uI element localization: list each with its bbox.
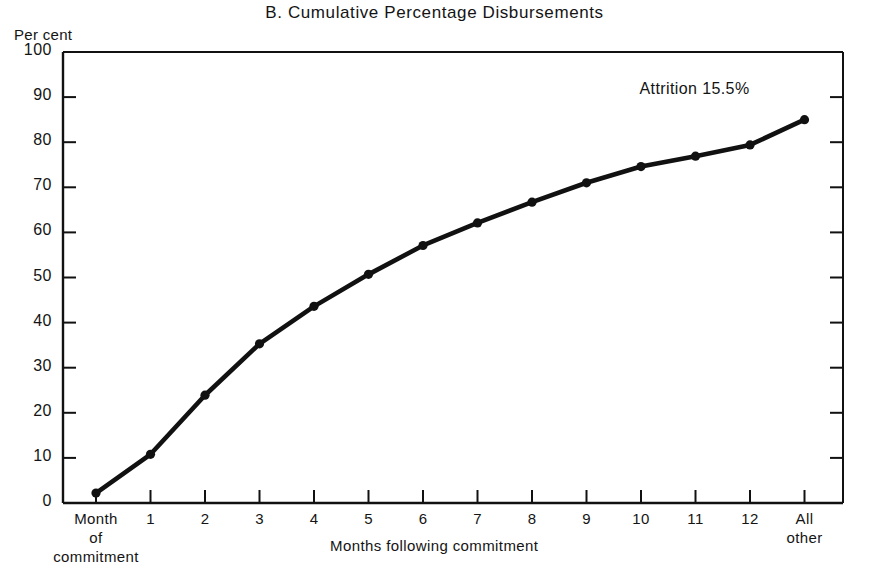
y-axis-tick-label: 60 xyxy=(4,221,52,239)
x-axis-tick-label-line: 2 xyxy=(201,510,210,529)
x-axis-tick-label: 1 xyxy=(146,510,155,529)
y-axis-tick-label: 0 xyxy=(4,492,52,510)
x-axis-tick-label: 6 xyxy=(419,510,428,529)
x-axis-tick-label-line: 8 xyxy=(528,510,537,529)
x-axis-tick-label: 7 xyxy=(473,510,482,529)
x-axis-tick-label: 4 xyxy=(310,510,319,529)
y-axis-ticks xyxy=(63,97,76,458)
y-axis-tick-label: 70 xyxy=(4,176,52,194)
attrition-annotation: Attrition 15.5% xyxy=(639,80,749,98)
x-axis-tick-label-line: 10 xyxy=(632,510,650,529)
x-axis-tick-label-line: Month xyxy=(53,510,139,529)
y-axis-tick-label: 90 xyxy=(4,86,52,104)
data-line xyxy=(96,120,805,493)
y-axis-tick-label: 40 xyxy=(4,312,52,330)
x-axis-tick-label-line: 11 xyxy=(687,510,703,529)
x-axis-tick-label-line: of xyxy=(53,529,139,548)
x-axis-tick-label-line: 4 xyxy=(310,510,319,529)
data-point-markers xyxy=(91,115,809,498)
y-axis-tick-label: 10 xyxy=(4,447,52,465)
y-axis-ticks-right xyxy=(830,97,843,458)
y-axis-tick-label: 80 xyxy=(4,131,52,149)
x-axis-tick-label-line: 12 xyxy=(741,510,759,529)
x-axis-tick-label-line: 7 xyxy=(473,510,482,529)
x-axis-tick-label: Allother xyxy=(786,510,822,548)
x-axis-tick-label: 2 xyxy=(201,510,210,529)
x-axis-tick-label-line: 1 xyxy=(146,510,155,529)
x-axis-tick-label-line: 3 xyxy=(255,510,264,529)
x-axis-tick-label: 3 xyxy=(255,510,264,529)
x-axis-title: Months following commitment xyxy=(330,537,538,554)
x-axis-tick-label: 9 xyxy=(582,510,591,529)
x-axis-tick-label-line: 5 xyxy=(364,510,373,529)
x-axis-tick-label: 5 xyxy=(364,510,373,529)
x-axis-tick-label-line: All xyxy=(786,510,822,529)
y-axis-tick-label: 50 xyxy=(4,267,52,285)
x-axis-tick-label: 11 xyxy=(687,510,703,529)
x-axis-tick-label: 12 xyxy=(741,510,759,529)
x-axis-tick-label-line: other xyxy=(786,529,822,548)
axis-frame xyxy=(63,52,843,503)
x-axis-tick-label-line: commitment xyxy=(53,548,139,567)
y-axis-tick-label: 20 xyxy=(4,402,52,420)
y-axis-tick-label: 30 xyxy=(4,357,52,375)
x-axis-tick-label: Monthofcommitment xyxy=(53,510,139,566)
x-axis-tick-label-line: 9 xyxy=(582,510,591,529)
x-axis-ticks xyxy=(96,52,805,503)
x-axis-tick-label: 10 xyxy=(632,510,650,529)
chart-figure: B. Cumulative Percentage Disbursements P… xyxy=(0,0,869,575)
x-axis-tick-label: 8 xyxy=(528,510,537,529)
y-axis-tick-label: 100 xyxy=(4,41,52,59)
x-axis-tick-label-line: 6 xyxy=(419,510,428,529)
